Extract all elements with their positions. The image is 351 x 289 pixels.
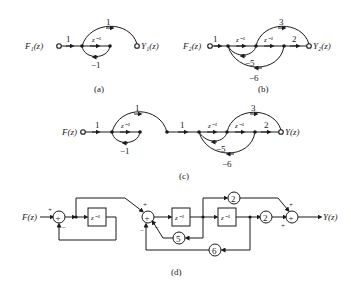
adder-2-sign: + bbox=[145, 213, 150, 223]
input-node-b bbox=[208, 44, 213, 49]
edge-c-fb1 bbox=[199, 132, 227, 141]
output-node-c bbox=[279, 130, 284, 135]
gain-b-delay1: z⁻¹ bbox=[235, 36, 245, 44]
adder-1-plus: + bbox=[48, 206, 52, 214]
gain-b-fb2: −6 bbox=[249, 73, 259, 83]
gain-c-link: 1 bbox=[180, 120, 185, 130]
diagram-b: F₂(z) 1 z⁻¹ z⁻¹ 2 Y₂(z) 3 −5 −6 (b) bbox=[182, 17, 331, 94]
delay-2-label: z⁻¹ bbox=[174, 214, 184, 222]
edge-b-fb2 bbox=[228, 46, 284, 67]
gain-a-delay: z⁻¹ bbox=[91, 36, 101, 44]
output-label-a: Y₁(z) bbox=[141, 41, 159, 51]
gain-d-2-top-label: 2 bbox=[231, 194, 236, 204]
gain-b-out: 2 bbox=[292, 34, 297, 44]
adder-2-plus: + bbox=[143, 201, 147, 209]
adder-3-sign: + bbox=[289, 213, 294, 223]
input-label-b: F₂(z) bbox=[182, 41, 201, 51]
edge-c-fbA bbox=[112, 132, 140, 143]
caption-a: (a) bbox=[94, 84, 104, 94]
gain-b-in: 1 bbox=[213, 34, 218, 44]
output-label-d: Y(z) bbox=[323, 212, 338, 222]
gain-c-fb2: −6 bbox=[222, 159, 232, 169]
gain-a-feedback: −1 bbox=[91, 60, 101, 70]
edge-d-g2top-to-adder3 bbox=[240, 198, 288, 210]
output-label-b: Y₂(z) bbox=[313, 41, 331, 51]
gain-a-in: 1 bbox=[66, 34, 71, 44]
input-label-d: F(z) bbox=[21, 212, 37, 222]
input-label-c: F(z) bbox=[61, 127, 77, 137]
delay-3-label: z⁻¹ bbox=[220, 214, 230, 222]
input-node-c bbox=[81, 130, 86, 135]
gain-b-forward: 3 bbox=[279, 17, 284, 27]
caption-c: (c) bbox=[179, 171, 189, 181]
edge-d-bypass bbox=[76, 198, 142, 217]
edge-a-forward bbox=[82, 26, 137, 46]
gain-b-delay2: z⁻¹ bbox=[263, 36, 273, 44]
gain-c-delay2: z⁻¹ bbox=[234, 122, 244, 130]
gain-d-5-label: 5 bbox=[176, 234, 181, 244]
adder-2-minus-b: − bbox=[140, 227, 144, 235]
gain-c-in: 1 bbox=[95, 120, 100, 130]
output-node-a bbox=[135, 44, 140, 49]
gain-d-6-label: 6 bbox=[212, 246, 217, 256]
gain-a-forward: 1 bbox=[106, 17, 111, 27]
gain-c-forward: 3 bbox=[251, 103, 256, 113]
signal-flow-diagrams: F₁(z) 1 z⁻¹ −1 1 Y₁(z) (a) F₂(z) 1 z⁻¹ z… bbox=[0, 0, 351, 289]
caption-b: (b) bbox=[258, 84, 269, 94]
adder-1-minus: − bbox=[62, 224, 66, 232]
adder-3-plus-b: + bbox=[281, 222, 285, 230]
gain-c-fbA: −1 bbox=[120, 146, 130, 156]
input-node-a bbox=[57, 44, 62, 49]
gain-c-fwdA: 1 bbox=[135, 103, 140, 113]
output-node-b bbox=[307, 44, 312, 49]
edge-a-feedback bbox=[82, 46, 110, 57]
delay-1-label: z⁻¹ bbox=[90, 214, 100, 222]
adder-3-plus-a: + bbox=[289, 201, 293, 209]
gain-d-2-out-label: 2 bbox=[263, 213, 268, 223]
gain-c-delayA: z⁻¹ bbox=[120, 122, 130, 130]
edge-b-fb1 bbox=[228, 46, 256, 55]
adder-1-sign: + bbox=[56, 213, 61, 223]
diagram-d: F(z) + + − z⁻¹ + + − − z⁻¹ z⁻¹ 2 2 bbox=[21, 192, 338, 277]
input-label-a: F₁(z) bbox=[24, 41, 43, 51]
output-label-c: Y(z) bbox=[285, 127, 300, 137]
diagram-a: F₁(z) 1 z⁻¹ −1 1 Y₁(z) (a) bbox=[24, 17, 159, 94]
caption-d: (d) bbox=[171, 267, 182, 277]
diagram-c: F(z) 1 z⁻¹ −1 1 1 z⁻¹ z⁻¹ 2 Y(z) bbox=[61, 103, 300, 181]
gain-c-delay1: z⁻¹ bbox=[207, 122, 217, 130]
edge-c-fb2 bbox=[199, 132, 255, 153]
gain-c-out: 2 bbox=[264, 120, 269, 130]
